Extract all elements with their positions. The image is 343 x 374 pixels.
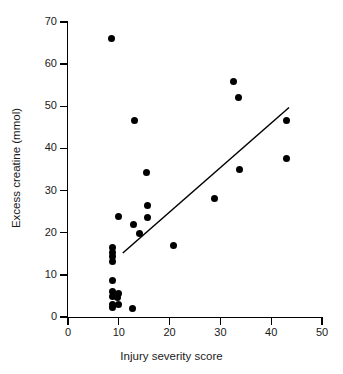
data-point [129, 305, 136, 312]
data-point [235, 94, 242, 101]
y-tick-mark [60, 232, 68, 233]
data-point [230, 78, 237, 85]
y-tick-label: 60 [17, 58, 57, 69]
data-point [108, 35, 115, 42]
data-point [109, 277, 116, 284]
y-tick-label: 40 [17, 142, 57, 153]
x-tick-label: 50 [302, 327, 342, 338]
data-point [170, 242, 177, 249]
data-point [115, 301, 122, 308]
data-point [131, 117, 138, 124]
x-tick-label: 40 [251, 327, 291, 338]
data-point [283, 155, 290, 162]
y-tick-mark [60, 106, 68, 107]
x-tick-mark [118, 317, 119, 325]
plot-area [68, 22, 322, 317]
x-tick-mark [67, 317, 68, 325]
data-point [115, 213, 122, 220]
x-tick-label: 30 [200, 327, 240, 338]
data-point [144, 202, 151, 209]
data-point [109, 304, 116, 311]
x-tick-mark [271, 317, 272, 325]
data-point [143, 169, 150, 176]
y-tick-mark [60, 21, 68, 22]
data-point [283, 117, 290, 124]
y-tick-label: 50 [17, 100, 57, 111]
x-tick-label: 10 [99, 327, 139, 338]
y-tick-label: 20 [17, 227, 57, 238]
y-tick-label: 30 [17, 185, 57, 196]
data-point [109, 258, 116, 265]
data-point [144, 214, 151, 221]
x-tick-label: 0 [48, 327, 88, 338]
data-point [130, 221, 137, 228]
y-tick-label: 70 [17, 16, 57, 27]
x-axis-title: Injury severity score [0, 350, 343, 362]
y-tick-mark [60, 190, 68, 191]
y-axis-title: Excess creatine (mmol) [10, 68, 22, 268]
x-tick-label: 20 [150, 327, 190, 338]
data-point [136, 230, 143, 237]
y-tick-mark [60, 274, 68, 275]
x-tick-mark [220, 317, 221, 325]
y-tick-mark [60, 63, 68, 64]
y-tick-mark [60, 148, 68, 149]
scatter-plot-figure: 010203040506070 01020304050 Injury sever… [0, 0, 343, 374]
data-point [211, 195, 218, 202]
y-tick-label: 10 [17, 269, 57, 280]
data-point [236, 166, 243, 173]
y-tick-label: 0 [17, 311, 57, 322]
x-tick-mark [169, 317, 170, 325]
x-tick-mark [321, 317, 322, 325]
